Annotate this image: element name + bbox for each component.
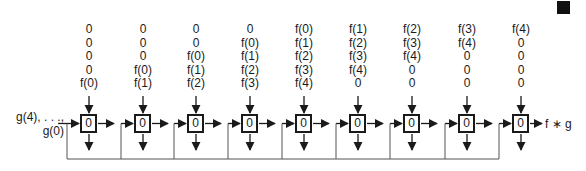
input-stream-column: f(2)f(3)f(4)00 [387,23,437,91]
stream-value: f(2) [225,64,275,78]
stream-value: f(0) [279,23,329,37]
processing-cell: 0 [512,114,529,133]
stream-value: f(2) [279,50,329,64]
stream-value: 0 [64,64,114,78]
stream-value: 0 [496,77,546,91]
input-stream-column: f(4)0000 [496,23,546,91]
stream-value: 0 [387,64,437,78]
processing-cell: 0 [349,114,366,133]
stream-value: f(3) [442,23,492,37]
processing-cell: 0 [458,114,475,133]
stream-value: f(0) [225,37,275,51]
stream-value: 0 [333,77,383,91]
processing-cell: 0 [187,114,204,133]
stream-value: 0 [118,37,168,51]
processing-cell: 0 [134,114,151,133]
stream-value: 0 [225,23,275,37]
stream-value: 0 [171,23,221,37]
stream-value: 0 [64,23,114,37]
stream-value: 0 [387,77,437,91]
stream-value: 0 [64,37,114,51]
stream-value: f(2) [171,77,221,91]
stream-value: f(1) [171,64,221,78]
stream-value: f(3) [279,64,329,78]
stream-value: 0 [118,50,168,64]
stream-value: f(0) [118,64,168,78]
stream-value: f(3) [387,37,437,51]
stream-value: f(1) [225,50,275,64]
input-label-line1: g(4), . . ., [6,110,64,124]
stream-value: f(1) [333,23,383,37]
input-stream-column: 0000f(0) [64,23,114,91]
stream-value: f(2) [387,23,437,37]
stream-value: 0 [442,64,492,78]
stream-value: f(4) [442,37,492,51]
processing-cell: 0 [241,114,258,133]
stream-value: f(4) [387,50,437,64]
stream-value: 0 [118,23,168,37]
stream-value: f(4) [279,77,329,91]
input-stream-column: 000f(0)f(1) [118,23,168,91]
stream-value: f(0) [64,77,114,91]
stream-value: 0 [496,37,546,51]
input-stream-column: f(0)f(1)f(2)f(3)f(4) [279,23,329,91]
stream-value: f(1) [279,37,329,51]
corner-mark [557,1,570,14]
stream-value: f(3) [225,77,275,91]
input-stream-column: 0f(0)f(1)f(2)f(3) [225,23,275,91]
stream-value: f(1) [118,77,168,91]
stream-value: f(4) [496,23,546,37]
stream-value: 0 [496,64,546,78]
stream-value: f(0) [171,50,221,64]
stream-value: 0 [64,50,114,64]
stream-value: f(4) [333,64,383,78]
stream-value: 0 [496,50,546,64]
processing-cell: 0 [80,114,97,133]
stream-value: 0 [442,77,492,91]
processing-cell: 0 [403,114,420,133]
stream-value: 0 [442,50,492,64]
stream-value: f(3) [333,50,383,64]
input-label: g(4), . . ., g(0) [6,110,64,138]
output-label: f ∗ g [545,117,572,131]
stream-value: 0 [171,37,221,51]
input-stream-column: 00f(0)f(1)f(2) [171,23,221,91]
input-stream-column: f(1)f(2)f(3)f(4)0 [333,23,383,91]
input-label-line2: g(0) [6,124,64,138]
input-stream-column: f(3)f(4)000 [442,23,492,91]
stream-value: f(2) [333,37,383,51]
processing-cell: 0 [295,114,312,133]
